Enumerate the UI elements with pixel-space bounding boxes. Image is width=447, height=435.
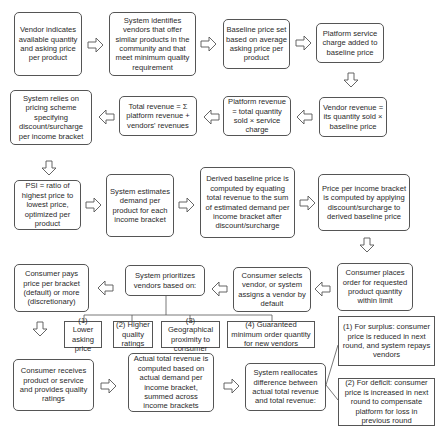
arrow-left-icon <box>315 282 330 296</box>
arrow-right-icon <box>86 198 101 212</box>
arrow-right-icon <box>224 379 239 393</box>
arrow-down-icon <box>42 161 56 175</box>
arrow-down-icon <box>344 73 358 87</box>
arrow-down-icon <box>33 322 47 336</box>
arrow-left-icon <box>98 281 113 295</box>
connectors <box>0 0 447 435</box>
arrow-right-icon <box>88 38 103 52</box>
arrow-right-icon <box>300 196 315 210</box>
arrow-left-icon <box>297 110 312 124</box>
arrow-right-icon <box>101 379 116 393</box>
arrow-left-icon <box>212 282 227 296</box>
arrow-right-icon <box>296 36 311 50</box>
arrow-down-icon <box>360 238 374 252</box>
arrow-left-icon <box>99 110 114 124</box>
arrow-right-icon <box>201 37 216 51</box>
arrow-right-icon <box>179 198 194 212</box>
arrow-left-icon <box>204 110 219 124</box>
